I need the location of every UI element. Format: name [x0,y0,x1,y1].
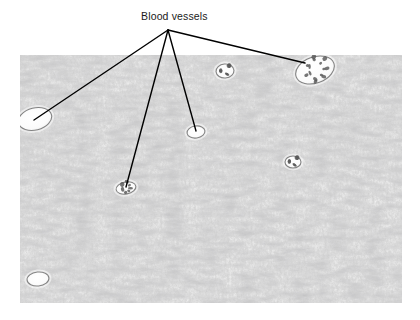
figure-blood-vessels: Blood vessels [0,0,420,320]
page-title: Blood vessels [141,10,208,23]
micrograph-image [20,55,402,303]
micrograph-canvas [20,55,402,303]
micrograph-haze [20,55,402,303]
